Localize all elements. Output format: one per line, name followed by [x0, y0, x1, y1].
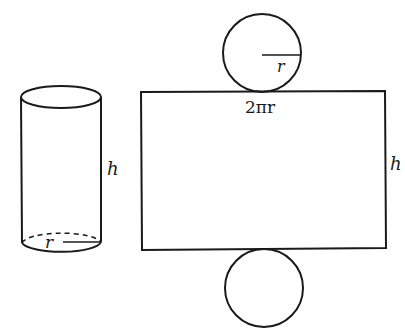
net-top-circle [223, 14, 301, 92]
rectangle-width-label: 2πr [245, 97, 276, 117]
cylinder-radius-label: r [45, 232, 54, 252]
net-bottom-circle [225, 249, 303, 327]
cylinder-left-side [21, 97, 22, 243]
cylinder-height-label: h [107, 158, 119, 179]
top-circle [223, 14, 301, 92]
cylinder [21, 86, 101, 252]
diagram-canvas: h r r 2πr h [0, 0, 405, 333]
rectangle-height-label: h [390, 153, 402, 174]
top-circle-radius-label: r [277, 57, 286, 76]
cylinder-bottom-front-arc [22, 242, 101, 252]
diagram-svg: h r r 2πr h [0, 0, 405, 333]
cylinder-top-ellipse [21, 86, 101, 108]
